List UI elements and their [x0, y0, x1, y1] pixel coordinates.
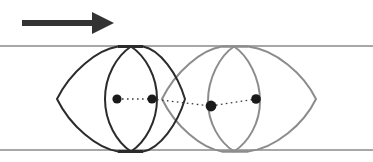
marker-dot-dark-right: [147, 94, 156, 103]
marker-dot-light-left: [206, 101, 217, 112]
figure-root: [0, 0, 373, 162]
marker-dot-dark-left: [112, 94, 121, 103]
marker-dot-light-right: [251, 94, 261, 104]
figure-canvas: [0, 0, 373, 162]
